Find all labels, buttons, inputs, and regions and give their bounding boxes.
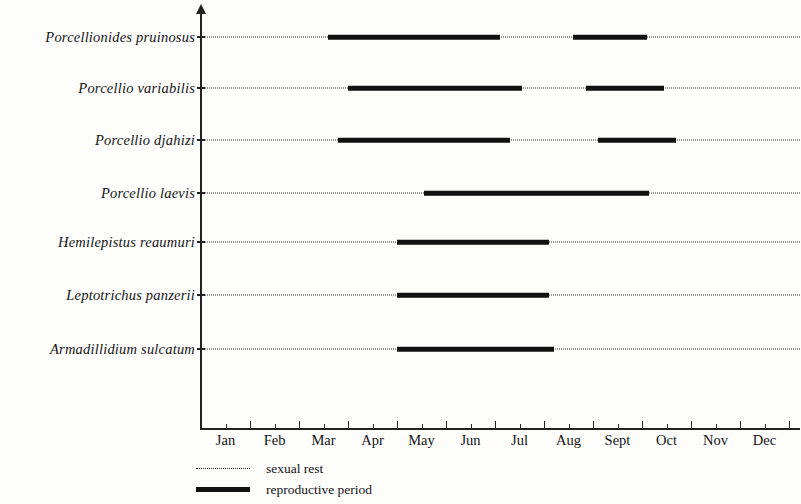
x-axis-minor-tick bbox=[422, 424, 423, 429]
x-axis bbox=[200, 428, 800, 430]
reproductive-period-bar bbox=[598, 138, 676, 143]
x-axis-major-tick bbox=[740, 421, 741, 429]
x-axis-minor-tick bbox=[275, 424, 276, 429]
x-axis-major-tick bbox=[201, 421, 202, 429]
species-label-column: Porcellionides pruinosusPorcellio variab… bbox=[0, 0, 195, 504]
species-label: Porcellio variabilis bbox=[78, 80, 195, 97]
x-axis-minor-tick bbox=[373, 424, 374, 429]
x-axis-month-label: Mar bbox=[311, 432, 335, 449]
x-axis-major-tick bbox=[348, 421, 349, 429]
x-axis-major-tick bbox=[544, 421, 545, 429]
y-axis bbox=[200, 12, 202, 429]
x-axis-minor-tick bbox=[716, 424, 717, 429]
x-axis-month-label: Jun bbox=[460, 432, 480, 449]
x-axis-minor-tick bbox=[471, 424, 472, 429]
chart-figure: Porcellionides pruinosusPorcellio variab… bbox=[0, 0, 801, 504]
legend: sexual rest reproductive period bbox=[196, 458, 372, 500]
species-label: Porcellio laevis bbox=[101, 185, 195, 202]
x-axis-month-label: Oct bbox=[656, 432, 677, 449]
sexual-rest-line bbox=[201, 37, 800, 38]
reproductive-period-bar bbox=[397, 240, 549, 245]
reproductive-period-bar bbox=[328, 35, 500, 40]
species-label: Armadillidium sulcatum bbox=[50, 341, 195, 358]
x-axis-major-tick bbox=[691, 421, 692, 429]
x-axis-minor-tick bbox=[765, 424, 766, 429]
x-axis-major-tick bbox=[397, 421, 398, 429]
reproductive-period-bar bbox=[573, 35, 647, 40]
x-axis-minor-tick bbox=[324, 424, 325, 429]
species-label: Leptotrichus panzerii bbox=[66, 287, 195, 304]
x-axis-major-tick bbox=[789, 421, 790, 429]
reproductive-period-bar bbox=[397, 347, 554, 352]
dotted-line-icon bbox=[196, 468, 254, 469]
x-axis-month-label: Sept bbox=[605, 432, 631, 449]
legend-label-sexual-rest: sexual rest bbox=[266, 461, 323, 477]
species-label: Porcellionides pruinosus bbox=[45, 29, 195, 46]
legend-label-reproductive-period: reproductive period bbox=[266, 482, 372, 498]
x-axis-minor-tick bbox=[226, 424, 227, 429]
reproductive-period-bar bbox=[348, 86, 522, 91]
legend-item-sexual-rest: sexual rest bbox=[196, 458, 372, 479]
species-label: Hemilepistus reaumuri bbox=[58, 234, 195, 251]
x-axis-minor-tick bbox=[569, 424, 570, 429]
x-axis-month-label: Apr bbox=[361, 432, 384, 449]
x-axis-month-label: Jul bbox=[511, 432, 528, 449]
x-axis-major-tick bbox=[642, 421, 643, 429]
x-axis-month-label: May bbox=[408, 432, 435, 449]
x-axis-minor-tick bbox=[667, 424, 668, 429]
x-axis-major-tick bbox=[495, 421, 496, 429]
x-axis-minor-tick bbox=[618, 424, 619, 429]
legend-item-reproductive-period: reproductive period bbox=[196, 479, 372, 500]
x-axis-month-label: Nov bbox=[703, 432, 728, 449]
x-axis-major-tick bbox=[446, 421, 447, 429]
x-axis-month-label: Feb bbox=[264, 432, 286, 449]
solid-line-icon bbox=[196, 487, 254, 492]
x-axis-major-tick bbox=[593, 421, 594, 429]
reproductive-period-bar bbox=[424, 191, 649, 196]
x-axis-major-tick bbox=[299, 421, 300, 429]
x-axis-month-label: Dec bbox=[753, 432, 776, 449]
x-axis-month-label: Aug bbox=[556, 432, 581, 449]
x-axis-minor-tick bbox=[520, 424, 521, 429]
species-label: Porcellio djahizi bbox=[95, 132, 195, 149]
x-axis-month-label: Jan bbox=[216, 432, 235, 449]
reproductive-period-bar bbox=[586, 86, 664, 91]
x-axis-major-tick bbox=[250, 421, 251, 429]
reproductive-period-bar bbox=[338, 138, 510, 143]
reproductive-period-bar bbox=[397, 293, 549, 298]
